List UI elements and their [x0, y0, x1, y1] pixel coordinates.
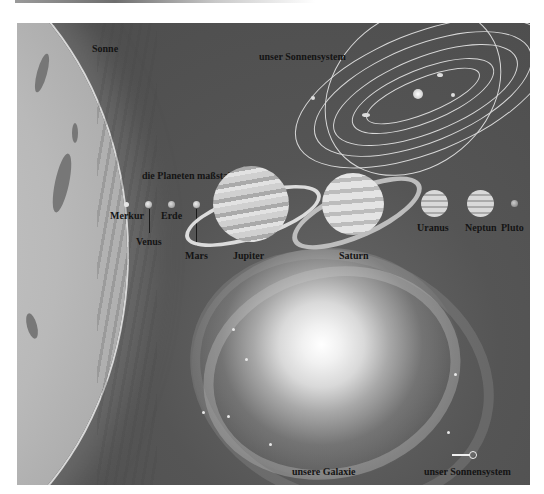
sunspot [32, 52, 52, 93]
jupiter-mini [437, 73, 443, 77]
star [447, 431, 450, 434]
planet-label-jupiter: Jupiter [233, 250, 264, 261]
planet-label-erde: Erde [161, 210, 182, 221]
top-edge-strip [15, 0, 315, 3]
planet-label-mars: Mars [185, 250, 208, 261]
star [269, 443, 272, 446]
mars [193, 201, 200, 208]
planet-label-pluto: Pluto [501, 222, 524, 233]
planet-label-venus: Venus [136, 236, 162, 247]
planet-label-uranus: Uranus [417, 222, 449, 233]
mercury [124, 202, 129, 207]
neptune [467, 190, 494, 217]
pluto [511, 200, 518, 207]
planet-label-saturn: Saturn [339, 250, 368, 261]
jupiter [213, 166, 289, 242]
star [232, 328, 235, 331]
planet-label-merkur: Merkur [110, 210, 144, 221]
star [454, 373, 457, 376]
astronomy-illustration: Sonne unser Sonnensystem die Planeten ma… [17, 23, 530, 485]
solar-system-label: unser Sonnensystem [259, 51, 346, 62]
solar-system-sun [413, 89, 423, 99]
earth [168, 201, 175, 208]
venus [145, 201, 152, 208]
planet-mini [311, 96, 315, 100]
sunspot [72, 123, 78, 143]
sunspot [24, 312, 40, 340]
star [227, 415, 230, 418]
venus-leader-line [149, 209, 150, 233]
planet-mini [451, 93, 455, 97]
saturn-mini [362, 113, 370, 117]
saturn [322, 173, 384, 235]
solar-system-position-marker-icon [469, 451, 477, 459]
planet-label-neptun: Neptun [465, 222, 497, 233]
sunspot [49, 152, 75, 214]
star [245, 358, 248, 361]
star [202, 411, 205, 414]
solar-system-position-label: unser Sonnensystem [424, 466, 511, 477]
sun-label: Sonne [92, 43, 118, 54]
arrow-icon [452, 454, 470, 456]
uranus [421, 190, 448, 217]
sun-corona [97, 23, 157, 485]
galaxy-label: unsere Galaxie [292, 466, 355, 477]
